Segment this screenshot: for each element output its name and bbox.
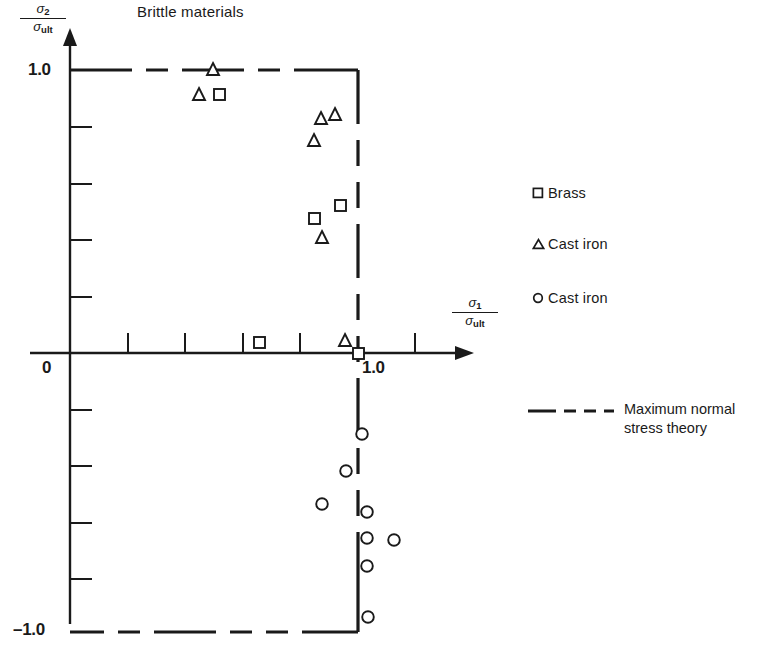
x-axis-arrowhead — [455, 346, 474, 360]
square-marker-icon — [528, 187, 548, 199]
legend-item-brass: Brass — [528, 185, 586, 201]
data-point-cast-iron-circle — [361, 560, 373, 572]
circle-marker-icon — [528, 292, 548, 304]
data-point-cast-iron-triangle — [329, 108, 341, 120]
plot-area — [0, 0, 781, 654]
brittle-materials-chart: Brittle materials σ2 σult σ1 σult 1.0 0 … — [0, 0, 781, 654]
data-point-cast-iron-circle — [340, 465, 352, 477]
data-point-cast-iron-triangle — [193, 88, 205, 100]
data-point-cast-iron-circle — [356, 428, 368, 440]
series-cast-iron-triangle-markers — [193, 63, 351, 346]
triangle-marker-icon — [528, 238, 548, 250]
data-point-cast-iron-circle — [362, 611, 374, 623]
legend-label-cast-iron-circle: Cast iron — [548, 290, 608, 306]
data-point-cast-iron-triangle — [339, 334, 351, 346]
data-point-brass — [309, 213, 320, 224]
dashed-line-icon — [528, 400, 614, 414]
legend-label-cast-iron-triangle: Cast iron — [548, 236, 608, 252]
legend-item-cast-iron-triangle: Cast iron — [528, 236, 608, 252]
data-point-cast-iron-triangle — [316, 231, 328, 243]
data-point-cast-iron-circle — [361, 506, 373, 518]
data-point-cast-iron-triangle — [308, 134, 320, 146]
data-point-brass — [353, 348, 364, 359]
legend-item-theory: Maximum normal stress theory — [528, 400, 735, 439]
data-point-cast-iron-circle — [361, 532, 373, 544]
data-point-brass — [335, 200, 346, 211]
data-point-brass — [254, 337, 265, 348]
data-point-cast-iron-circle — [316, 498, 328, 510]
data-point-cast-iron-circle — [388, 534, 400, 546]
axes — [30, 28, 474, 624]
data-point-cast-iron-triangle — [315, 112, 327, 124]
legend-item-cast-iron-circle: Cast iron — [528, 290, 608, 306]
y-axis-arrowhead — [63, 28, 77, 46]
data-point-brass — [214, 89, 225, 100]
legend-label-brass: Brass — [548, 185, 586, 201]
maximum-normal-stress-envelope — [70, 70, 358, 632]
legend-label-theory: Maximum normal stress theory — [624, 400, 735, 439]
series-brass-markers — [214, 89, 364, 359]
